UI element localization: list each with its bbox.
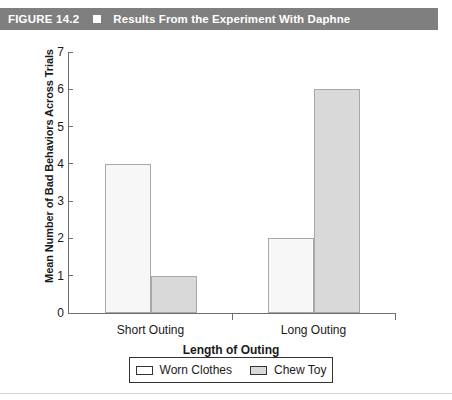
worn-clothes-swatch bbox=[136, 366, 153, 375]
figure-number: FIGURE 14.2 bbox=[8, 13, 79, 25]
y-tick-label: 4 bbox=[57, 158, 69, 170]
y-axis-title: Mean Number of Bad Behaviors Across Tria… bbox=[43, 41, 55, 291]
y-tick-label: 6 bbox=[57, 83, 69, 95]
y-tick-mark bbox=[69, 238, 73, 239]
y-tick-mark bbox=[69, 275, 73, 276]
x-axis-divider bbox=[395, 313, 396, 320]
y-tick-mark bbox=[69, 313, 73, 314]
bottom-divider bbox=[0, 393, 452, 394]
bar-worn-0 bbox=[105, 164, 151, 313]
y-tick-label: 7 bbox=[57, 46, 69, 58]
legend-label: Chew Toy bbox=[274, 363, 326, 377]
y-tick-mark bbox=[69, 52, 73, 53]
chart-legend: Worn ClothesChew Toy bbox=[129, 357, 333, 383]
figure-title: Results From the Experiment With Daphne bbox=[113, 13, 350, 25]
x-category-label: Long Outing bbox=[281, 323, 346, 337]
y-tick-mark bbox=[69, 163, 73, 164]
y-tick-mark bbox=[69, 126, 73, 127]
bar-worn-1 bbox=[268, 238, 314, 313]
bar-chew-1 bbox=[314, 89, 360, 313]
y-tick-label: 0 bbox=[57, 307, 69, 319]
y-tick-label: 2 bbox=[57, 232, 69, 244]
bar-chew-0 bbox=[151, 276, 197, 313]
y-tick-label: 1 bbox=[57, 270, 69, 282]
bar-chart: Mean Number of Bad Behaviors Across Tria… bbox=[0, 30, 452, 370]
y-tick-label: 3 bbox=[57, 195, 69, 207]
x-axis-divider bbox=[232, 313, 233, 320]
legend-entry: Chew Toy bbox=[250, 363, 326, 377]
x-category-label: Short Outing bbox=[117, 323, 184, 337]
y-tick-mark bbox=[69, 89, 73, 90]
y-tick-mark bbox=[69, 201, 73, 202]
chew-toy-swatch bbox=[250, 366, 267, 375]
square-marker-icon bbox=[93, 15, 101, 23]
legend-label: Worn Clothes bbox=[160, 363, 232, 377]
x-axis-title: Length of Outing bbox=[68, 343, 394, 357]
legend-entry: Worn Clothes bbox=[136, 363, 232, 377]
figure-header-bar: FIGURE 14.2 Results From the Experiment … bbox=[0, 8, 438, 30]
plot-area: 01234567 Short OutingLong Outing bbox=[68, 52, 395, 314]
y-tick-label: 5 bbox=[57, 121, 69, 133]
